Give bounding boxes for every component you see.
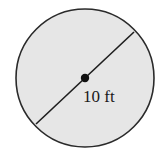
diameter-label: 10 ft xyxy=(83,87,115,106)
center-point xyxy=(81,74,89,82)
circle-diagram: 10 ft xyxy=(0,0,159,154)
